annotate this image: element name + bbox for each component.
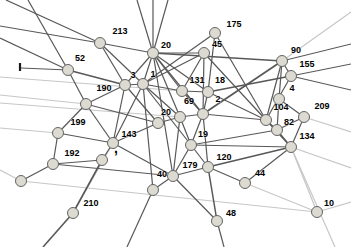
graph-edge <box>203 114 208 167</box>
graph-node-104[interactable] <box>261 115 272 126</box>
graph-edge <box>125 85 158 123</box>
node-label-192-192: 192 <box>64 148 79 158</box>
graph-edge <box>291 76 351 90</box>
graph-edge <box>21 181 317 212</box>
graph-node-210[interactable] <box>68 208 79 219</box>
graph-node-1[interactable] <box>138 79 149 90</box>
node-label-90-90: 90 <box>291 45 301 55</box>
graph-edge <box>53 160 102 164</box>
graph-node-u1[interactable] <box>16 176 27 187</box>
graph-node-52[interactable] <box>63 65 74 76</box>
graph-edge <box>100 43 143 84</box>
graph-node-18[interactable] <box>203 87 214 98</box>
node-label-48-48: 48 <box>226 208 236 218</box>
graph-node-131[interactable] <box>177 86 188 97</box>
graph-node-82[interactable] <box>272 125 283 136</box>
node-label-44-44: 44 <box>255 168 265 178</box>
node-label-213-213: 213 <box>112 26 127 36</box>
node-label-4-4: 4 <box>289 83 294 93</box>
graph-node-48[interactable] <box>212 216 223 227</box>
graph-node-192[interactable] <box>48 159 59 170</box>
graph-edge <box>0 128 58 133</box>
graph-node-143[interactable] <box>108 138 119 149</box>
graph-node-199[interactable] <box>53 128 64 139</box>
graph-edge <box>28 0 68 70</box>
network-graph-figure: ,213201754590155523113118420910482134190… <box>0 0 351 247</box>
graph-edge <box>6 0 100 43</box>
graph-node-120[interactable] <box>203 162 214 173</box>
graph-node-175[interactable] <box>210 28 221 39</box>
node-label-179-179: 179 <box>182 160 197 170</box>
graph-edge <box>137 0 153 53</box>
graph-edge <box>0 77 182 91</box>
node-label-18-18: 18 <box>215 75 225 85</box>
graph-node-u2[interactable] <box>97 155 108 166</box>
graph-edge <box>100 43 153 53</box>
network-graph: ,213201754590155523113118420910482134190… <box>0 0 351 247</box>
graph-node-20[interactable] <box>153 118 164 129</box>
node-label-20-20b: 20 <box>161 107 171 117</box>
graph-node-134[interactable] <box>286 142 297 153</box>
graph-node-45[interactable] <box>199 48 210 59</box>
graph-edge <box>208 167 245 183</box>
graph-edge <box>291 147 335 247</box>
graph-node-69[interactable] <box>175 112 186 123</box>
node-label-104-104: 104 <box>273 102 288 112</box>
node-label-3-3: 3 <box>130 70 135 80</box>
graph-edge <box>21 68 68 70</box>
node-label-120-120: 120 <box>216 152 231 162</box>
node-label-82-82: 82 <box>284 117 294 127</box>
node-label-131-131: 131 <box>189 75 204 85</box>
graph-node-213[interactable] <box>95 38 106 49</box>
node-label-45-45: 45 <box>212 39 222 49</box>
graph-node-90[interactable] <box>277 56 288 67</box>
graph-node-20[interactable] <box>148 48 159 59</box>
graph-edge <box>127 190 153 247</box>
node-label-143-143: 143 <box>121 129 136 139</box>
graph-node-190[interactable] <box>81 99 92 110</box>
graph-edge <box>304 117 351 132</box>
node-label-40-40: 40 <box>157 169 167 179</box>
graph-node-155[interactable] <box>286 71 297 82</box>
graph-edge <box>43 213 73 247</box>
node-label-175-175: 175 <box>226 19 241 29</box>
graph-edge <box>0 38 68 70</box>
node-label-190-190: 190 <box>96 83 111 93</box>
graph-node-209[interactable] <box>299 112 310 123</box>
graph-edge <box>291 147 351 168</box>
node-label-20-20a: 20 <box>161 40 171 50</box>
graph-edge <box>58 133 113 143</box>
node-label-155-155: 155 <box>299 59 314 69</box>
node-label-69-69: 69 <box>184 96 194 106</box>
graph-edge <box>0 95 86 104</box>
graph-edge <box>153 53 282 61</box>
graph-node-40[interactable] <box>148 185 159 196</box>
node-label-10-10: 10 <box>324 198 334 208</box>
node-label-19-19: 19 <box>198 129 208 139</box>
graph-node-2[interactable] <box>198 109 209 120</box>
graph-edge <box>0 26 100 43</box>
graph-node-3[interactable] <box>120 80 131 91</box>
node-label-2-2: 2 <box>215 94 220 104</box>
node-label-209-209: 209 <box>314 101 329 111</box>
node-label-199-199: 199 <box>70 117 85 127</box>
node-label-1-1: 1 <box>150 69 155 79</box>
graph-node-10[interactable] <box>312 207 323 218</box>
graph-node-19[interactable] <box>186 140 197 151</box>
node-label-52-52: 52 <box>75 53 85 63</box>
node-label-134-134: 134 <box>299 131 314 141</box>
graph-node-179[interactable] <box>168 171 179 182</box>
graph-node-44[interactable] <box>240 178 251 189</box>
node-label-210-210: 210 <box>83 198 98 208</box>
